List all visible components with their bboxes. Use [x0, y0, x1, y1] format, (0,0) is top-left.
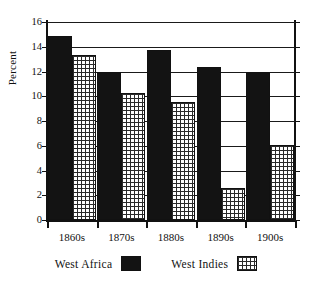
bar-west-africa-1870s	[97, 72, 121, 221]
y-axis-tick	[42, 121, 47, 122]
bar-west-africa-1880s	[147, 50, 171, 220]
gridline	[47, 22, 295, 23]
y-axis-tick-label: 14	[20, 42, 42, 52]
bar-west-indies-1900s	[270, 145, 294, 220]
plot-area: 0246810121416 1860s1870s1880s1890s1900s	[47, 22, 295, 220]
y-axis-tick-label: 6	[20, 141, 42, 151]
bar-west-africa-1860s	[48, 36, 72, 220]
legend-label: West Africa	[55, 258, 113, 270]
bar-chart: Percent 0246810121416 1860s1870s1880s189…	[0, 0, 312, 292]
y-axis-tick-right	[295, 195, 300, 196]
x-axis-tick-label-1900s: 1900s	[240, 231, 300, 243]
y-axis-tick-right	[295, 47, 300, 48]
legend-swatch	[121, 256, 141, 271]
gridline	[47, 47, 295, 48]
x-axis-tick	[146, 221, 148, 228]
y-axis-tick-label: 4	[20, 166, 42, 176]
bar-west-africa-1890s	[197, 67, 221, 220]
y-axis-tick	[42, 72, 47, 73]
legend-swatch	[237, 256, 257, 271]
x-axis-tick	[97, 221, 99, 228]
y-axis-tick	[42, 146, 47, 147]
bar-west-indies-1870s	[121, 93, 145, 220]
x-axis-tick	[47, 221, 49, 228]
y-axis-tick	[42, 47, 47, 48]
y-axis-tick-right	[295, 121, 300, 122]
legend: West AfricaWest Indies	[0, 256, 312, 271]
y-axis-tick-right	[295, 22, 300, 23]
x-axis-tick	[295, 221, 297, 228]
bottom-axis-line	[46, 220, 296, 222]
y-axis-tick-label: 10	[20, 91, 42, 101]
bar-west-africa-1900s	[246, 72, 270, 221]
bar-west-indies-1860s	[72, 55, 96, 220]
y-axis-tick	[42, 96, 47, 97]
bar-west-indies-1890s	[221, 188, 245, 220]
y-axis-tick-label: 8	[20, 116, 42, 126]
y-axis-tick-label: 16	[20, 17, 42, 27]
legend-entry-west-africa: West Africa	[55, 256, 142, 271]
y-axis-tick	[42, 195, 47, 196]
y-axis-tick-label: 0	[20, 215, 42, 225]
y-axis-tick-right	[295, 146, 300, 147]
y-axis-tick-label: 2	[20, 190, 42, 200]
y-axis-tick-right	[295, 72, 300, 73]
y-axis-tick-right	[295, 171, 300, 172]
x-axis-tick	[245, 221, 247, 228]
y-axis-tick	[42, 22, 47, 23]
x-axis-tick	[196, 221, 198, 228]
legend-entry-west-indies: West Indies	[171, 256, 257, 271]
y-axis-tick	[42, 171, 47, 172]
y-axis-tick-right	[295, 96, 300, 97]
y-axis-tick-label: 12	[20, 67, 42, 77]
bar-west-indies-1880s	[171, 102, 195, 220]
legend-label: West Indies	[171, 258, 228, 270]
